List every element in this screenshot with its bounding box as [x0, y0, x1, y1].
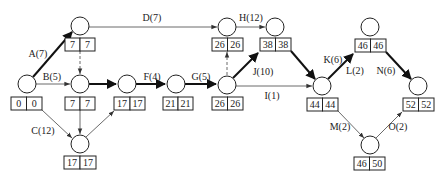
node-4: 17 17 [64, 135, 96, 169]
node-11-es: 46 [358, 40, 368, 51]
edge-n9-n10 [291, 51, 315, 79]
edge-label-a: A(7) [29, 48, 48, 60]
node-12: 52 52 [403, 77, 434, 111]
edge-label-h: H(12) [239, 12, 263, 24]
node-6: 21 21 [163, 75, 193, 110]
edge-label-o: O(2) [389, 121, 408, 133]
node-13-ls: 50 [372, 158, 382, 169]
node-13: 46 50 [354, 136, 385, 170]
node-1: 0 0 [11, 75, 42, 110]
node-13-es: 46 [357, 158, 367, 169]
node-7: 26 26 [212, 76, 243, 110]
node-8-es: 26 [215, 39, 225, 50]
edge-label-c: C(12) [31, 125, 54, 137]
node-9: 38 38 [260, 18, 291, 51]
node-4-ls: 17 [83, 157, 93, 168]
node-8-ls: 26 [230, 39, 240, 50]
node-5: 17 17 [114, 75, 145, 110]
node-2-es: 7 [70, 39, 75, 50]
node-10-es: 44 [310, 99, 320, 110]
node-9-es: 38 [263, 39, 273, 50]
edge-label-j: J(10) [253, 66, 274, 78]
edge-label-m: M(2) [330, 121, 351, 133]
edge-label-d: D(7) [143, 12, 162, 24]
node-11: 46 46 [355, 18, 386, 52]
node-7-ls: 26 [230, 98, 240, 109]
node-3: 7 7 [65, 75, 95, 110]
node-5-es: 17 [117, 98, 127, 109]
node-2-ls: 7 [85, 39, 90, 50]
node-7-es: 26 [215, 98, 225, 109]
node-1-es: 0 [16, 98, 21, 109]
edge-label-f: F(4) [143, 71, 160, 83]
edge-n4-n5 [86, 111, 114, 137]
node-5-ls: 17 [133, 98, 143, 109]
node-10-ls: 44 [325, 99, 335, 110]
node-11-ls: 46 [373, 40, 383, 51]
node-10: 44 44 [307, 77, 338, 111]
node-3-ls: 7 [85, 98, 90, 109]
node-4-es: 17 [67, 157, 77, 168]
edge-label-i: I(1) [265, 90, 280, 102]
node-6-es: 21 [166, 98, 176, 109]
node-3-es: 7 [70, 98, 75, 109]
edge-label-g: G(5) [192, 71, 211, 83]
edge-label-k: K(6) [324, 54, 343, 66]
node-12-ls: 52 [421, 99, 431, 110]
network-diagram: A(7) B(5) C(12) D(7) F(4) G(5) H(12) J(1… [0, 0, 444, 176]
node-1-ls: 0 [32, 98, 37, 109]
edge-label-b: B(5) [43, 71, 61, 83]
edge-label-n: N(6) [377, 65, 396, 77]
node-12-es: 52 [406, 99, 416, 110]
node-6-ls: 21 [181, 98, 191, 109]
edge-label-l: L(2) [346, 65, 364, 77]
node-9-ls: 38 [278, 39, 288, 50]
